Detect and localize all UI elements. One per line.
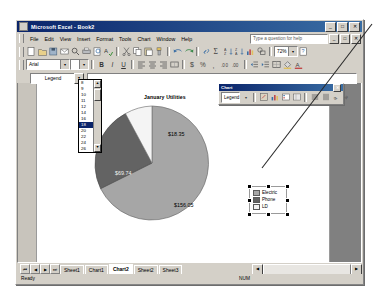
menu-item-format[interactable]: Format bbox=[93, 35, 116, 43]
selection-handle-se[interactable] bbox=[285, 212, 290, 217]
font-size-dropdown-scrollbar[interactable]: ▲ ▼ bbox=[93, 80, 101, 152]
by-column-icon[interactable] bbox=[320, 92, 331, 103]
selection-handle-n[interactable] bbox=[266, 184, 271, 189]
bold-icon[interactable]: B bbox=[96, 59, 107, 70]
chart-objects-dropdown-arrow[interactable]: ▾ bbox=[240, 92, 251, 103]
data-table-icon[interactable] bbox=[291, 92, 302, 103]
angle-text-up-icon[interactable]: a bbox=[342, 92, 353, 103]
scroll-up-button[interactable]: ▲ bbox=[94, 80, 101, 88]
paste-icon[interactable] bbox=[143, 46, 154, 57]
chart-wizard-icon[interactable] bbox=[245, 46, 256, 57]
chart-toolbar-close-button[interactable]: ✕ bbox=[333, 84, 341, 92]
excel-icon[interactable] bbox=[19, 22, 28, 31]
menu-item-insert[interactable]: Insert bbox=[74, 35, 93, 43]
horizontal-scrollbar[interactable]: ◀ ▶ bbox=[252, 265, 362, 274]
close-button[interactable]: ✕ bbox=[349, 22, 360, 32]
sheet-tab-sheet2[interactable]: Sheet2 bbox=[134, 265, 158, 274]
menu-item-view[interactable]: View bbox=[57, 35, 74, 43]
legend-entry-ld[interactable]: LD bbox=[253, 203, 284, 210]
doc-close-button[interactable]: ✕ bbox=[351, 34, 361, 44]
align-right-icon[interactable] bbox=[158, 59, 169, 70]
tab-nav-last-button[interactable]: ⏭ bbox=[50, 264, 60, 274]
maximize-button[interactable]: □ bbox=[337, 22, 348, 32]
menu-item-help[interactable]: Help bbox=[178, 35, 195, 43]
zoom-dropdown-arrow[interactable]: ▾ bbox=[288, 47, 297, 56]
legend-icon[interactable] bbox=[280, 92, 291, 103]
pie-data-label-ld[interactable]: $18.35 bbox=[168, 131, 185, 137]
search-icon[interactable] bbox=[70, 46, 81, 57]
decrease-indent-icon[interactable] bbox=[249, 59, 260, 70]
format-painter-icon[interactable] bbox=[154, 46, 165, 57]
font-size-combo[interactable]: ▾ bbox=[70, 59, 89, 70]
menu-item-chart[interactable]: Chart bbox=[134, 35, 153, 43]
selection-handle-ne[interactable] bbox=[285, 184, 290, 189]
selection-handle-e[interactable] bbox=[285, 198, 290, 203]
by-row-icon[interactable] bbox=[309, 92, 320, 103]
doc-restore-button[interactable]: □ bbox=[340, 34, 350, 44]
print-icon[interactable] bbox=[81, 46, 92, 57]
selection-handle-nw[interactable] bbox=[247, 184, 252, 189]
selection-handle-s[interactable] bbox=[266, 212, 271, 217]
selection-handle-w[interactable] bbox=[247, 198, 252, 203]
pie-data-label-electric[interactable]: $156.05 bbox=[174, 202, 194, 208]
sheet-tab-chart1[interactable]: Chart1 bbox=[85, 265, 108, 274]
chart-type-icon[interactable] bbox=[269, 92, 280, 103]
sort-asc-icon[interactable]: AZ bbox=[223, 46, 234, 57]
print-preview-icon[interactable] bbox=[92, 46, 103, 57]
underline-icon[interactable]: U bbox=[118, 59, 129, 70]
align-left-icon[interactable] bbox=[136, 59, 147, 70]
cut-icon[interactable] bbox=[121, 46, 132, 57]
drawing-icon[interactable] bbox=[256, 46, 267, 57]
doc-minimize-button[interactable]: _ bbox=[329, 34, 339, 44]
font-name-dropdown-arrow[interactable]: ▾ bbox=[60, 60, 69, 69]
menu-item-tools[interactable]: Tools bbox=[116, 35, 134, 43]
mail-icon[interactable] bbox=[59, 46, 70, 57]
sort-desc-icon[interactable]: ZA bbox=[234, 46, 245, 57]
help-icon[interactable]: ? bbox=[298, 46, 309, 57]
percent-icon[interactable]: % bbox=[198, 59, 209, 70]
open-icon[interactable] bbox=[37, 46, 48, 57]
hyperlink-icon[interactable] bbox=[201, 46, 212, 57]
decrease-decimal-icon[interactable]: .00 bbox=[231, 59, 242, 70]
undo-icon[interactable] bbox=[172, 46, 183, 57]
formatting-toolbar-grip[interactable] bbox=[19, 60, 24, 70]
menu-item-window[interactable]: Window bbox=[153, 35, 178, 43]
format-selection-icon[interactable] bbox=[258, 92, 269, 103]
copy-icon[interactable] bbox=[132, 46, 143, 57]
font-color-icon[interactable]: A bbox=[293, 59, 304, 70]
menu-item-edit[interactable]: Edit bbox=[42, 35, 57, 43]
font-name-combo[interactable]: Arial ▾ bbox=[26, 59, 70, 70]
new-icon[interactable] bbox=[26, 46, 37, 57]
font-size-option-26[interactable]: 26 bbox=[79, 146, 93, 152]
tab-nav-prev-button[interactable]: ◀ bbox=[30, 264, 40, 274]
selection-handle-sw[interactable] bbox=[247, 212, 252, 217]
increase-decimal-icon[interactable]: .00 bbox=[220, 59, 231, 70]
tab-nav-first-button[interactable]: ⏮ bbox=[20, 264, 30, 274]
currency-icon[interactable]: $ bbox=[187, 59, 198, 70]
menu-item-file[interactable]: File bbox=[27, 35, 42, 43]
font-size-dropdown-list[interactable]: 8 9 10 11 12 14 16 18 20 22 24 26 ▲ ▼ bbox=[78, 79, 102, 153]
italic-icon[interactable]: I bbox=[107, 59, 118, 70]
increase-indent-icon[interactable] bbox=[260, 59, 271, 70]
redo-icon[interactable] bbox=[183, 46, 194, 57]
zoom-combo[interactable]: 72% ▾ bbox=[274, 46, 298, 57]
name-box[interactable]: Legend bbox=[30, 73, 76, 84]
merge-center-icon[interactable] bbox=[169, 59, 180, 70]
sheet-tab-chart2[interactable]: Chart2 bbox=[109, 264, 133, 274]
borders-icon[interactable] bbox=[271, 59, 282, 70]
chart-title[interactable]: January Utilities bbox=[144, 94, 186, 100]
tab-nav-next-button[interactable]: ▶ bbox=[40, 264, 50, 274]
chart-legend[interactable]: Electric Phone LD bbox=[249, 186, 287, 214]
save-icon[interactable] bbox=[48, 46, 59, 57]
scroll-down-button[interactable]: ▼ bbox=[94, 144, 101, 152]
pie-data-label-phone[interactable]: $69.74 bbox=[115, 170, 132, 176]
font-size-dropdown-arrow[interactable]: ▾ bbox=[79, 60, 88, 69]
ask-a-question-input[interactable]: Type a question for help bbox=[250, 34, 328, 44]
scrollbar-thumb[interactable] bbox=[94, 89, 101, 101]
legend-entry-electric[interactable]: Electric bbox=[253, 189, 284, 196]
angle-text-down-icon[interactable]: a bbox=[331, 92, 342, 103]
standard-toolbar-grip[interactable] bbox=[19, 47, 24, 57]
comma-icon[interactable]: , bbox=[209, 59, 220, 70]
minimize-button[interactable]: _ bbox=[325, 22, 336, 32]
chart-objects-combo[interactable]: Legend bbox=[221, 92, 240, 103]
